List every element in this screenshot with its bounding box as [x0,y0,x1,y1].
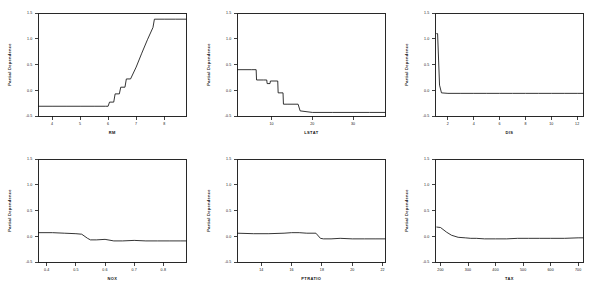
plot-dis: -0.50.00.51.01.524681012DISPartial Depen… [397,0,596,146]
x-axis-label: LSTAT [304,130,318,135]
x-tick-label: 8 [163,122,165,126]
plot-frame [237,159,386,262]
panel-tax: -0.50.00.51.01.5200300400500600700TAXPar… [397,146,596,292]
x-tick-label: 20 [350,268,354,272]
plot-frame [237,13,386,116]
y-tick-label: 1.5 [226,11,231,15]
y-tick-label: 1.5 [424,157,429,161]
x-tick-label: 0.8 [161,268,166,272]
x-tick-label: 0.5 [73,268,78,272]
y-tick-label: 0.0 [424,235,429,239]
x-tick-label: 12 [575,122,579,126]
y-axis-label: Partial Dependence [404,43,409,86]
partial-dependence-line [437,227,584,239]
x-axis-label: RM [109,130,116,135]
partial-dependence-line [38,233,187,241]
x-tick-label: 8 [525,122,527,126]
x-tick-label: 0.4 [44,268,49,272]
panel-dis: -0.50.00.51.01.524681012DISPartial Depen… [397,0,596,146]
y-tick-label: 1.0 [226,183,231,187]
x-tick-label: 14 [259,268,263,272]
plot-lstat: -0.50.00.51.01.5102030LSTATPartial Depen… [199,0,398,146]
y-tick-label: 0.0 [27,89,32,93]
x-tick-label: 18 [319,268,323,272]
x-tick-label: 6 [107,122,109,126]
y-tick-label: -0.5 [26,114,33,118]
y-tick-label: 0.5 [226,63,231,67]
y-tick-label: 0.5 [27,209,32,213]
y-tick-label: -0.5 [26,260,33,264]
y-axis-label: Partial Dependence [404,189,409,232]
x-tick-label: 5 [79,122,81,126]
y-tick-label: 1.5 [27,11,32,15]
x-tick-label: 10 [550,122,554,126]
y-axis-label: Partial Dependence [206,189,211,232]
plot-ptratio: -0.50.00.51.01.51416182022PTRATIOPartial… [199,146,398,292]
x-tick-label: 500 [520,268,526,272]
y-tick-label: 0.5 [424,209,429,213]
x-tick-label: 2 [447,122,449,126]
x-axis-label: DIS [506,130,514,135]
y-tick-label: 0.0 [27,235,32,239]
plot-frame [38,159,187,262]
y-tick-label: 0.0 [226,89,231,93]
plot-rm: -0.50.00.51.01.545678RMPartial Dependenc… [0,0,199,146]
y-tick-label: 1.0 [27,37,32,41]
y-axis-label: Partial Dependence [206,43,211,86]
partial-dependence-line [38,19,187,106]
y-tick-label: 1.0 [424,37,429,41]
y-tick-label: 0.0 [424,89,429,93]
y-tick-label: 0.5 [226,209,231,213]
x-tick-label: 20 [310,122,314,126]
plot-tax: -0.50.00.51.01.5200300400500600700TAXPar… [397,146,596,292]
x-tick-label: 200 [438,268,444,272]
y-tick-label: 0.5 [27,63,32,67]
x-tick-label: 7 [135,122,137,126]
x-axis-label: TAX [505,276,514,281]
y-tick-label: 0.0 [226,235,231,239]
x-tick-label: 0.7 [131,268,136,272]
y-tick-label: 1.0 [27,183,32,187]
y-tick-label: 0.5 [424,63,429,67]
panel-ptratio: -0.50.00.51.01.51416182022PTRATIOPartial… [199,146,398,292]
plot-frame [38,13,187,116]
x-tick-label: 10 [269,122,273,126]
plot-frame [435,13,584,116]
panel-rm: -0.50.00.51.01.545678RMPartial Dependenc… [0,0,199,146]
y-axis-label: Partial Dependence [7,189,12,232]
partial-dependence-line [237,233,386,239]
plot-nox: -0.50.00.51.01.50.40.50.60.70.8NOXPartia… [0,146,199,292]
y-tick-label: 1.0 [424,183,429,187]
partial-dependence-line [237,70,386,113]
y-tick-label: -0.5 [224,114,231,118]
x-axis-label: PTRATIO [301,276,321,281]
y-tick-label: 1.5 [27,157,32,161]
panel-nox: -0.50.00.51.01.50.40.50.60.70.8NOXPartia… [0,146,199,292]
y-tick-label: 1.5 [424,11,429,15]
partial-dependence-figure: -0.50.00.51.01.545678RMPartial Dependenc… [0,0,596,292]
x-tick-label: 0.6 [102,268,107,272]
x-tick-label: 400 [493,268,499,272]
y-tick-label: -0.5 [224,260,231,264]
partial-dependence-line [437,34,584,94]
x-tick-label: 4 [473,122,475,126]
y-tick-label: -0.5 [423,114,430,118]
y-tick-label: 1.0 [226,37,231,41]
y-axis-label: Partial Dependence [7,43,12,86]
x-tick-label: 16 [289,268,293,272]
plot-frame [435,159,584,262]
x-tick-label: 4 [51,122,53,126]
y-tick-label: -0.5 [423,260,430,264]
x-tick-label: 30 [351,122,355,126]
x-tick-label: 6 [499,122,501,126]
x-tick-label: 300 [465,268,471,272]
x-axis-label: NOX [107,276,117,281]
x-tick-label: 700 [575,268,581,272]
x-tick-label: 600 [548,268,554,272]
x-tick-label: 22 [380,268,384,272]
panel-lstat: -0.50.00.51.01.5102030LSTATPartial Depen… [199,0,398,146]
y-tick-label: 1.5 [226,157,231,161]
